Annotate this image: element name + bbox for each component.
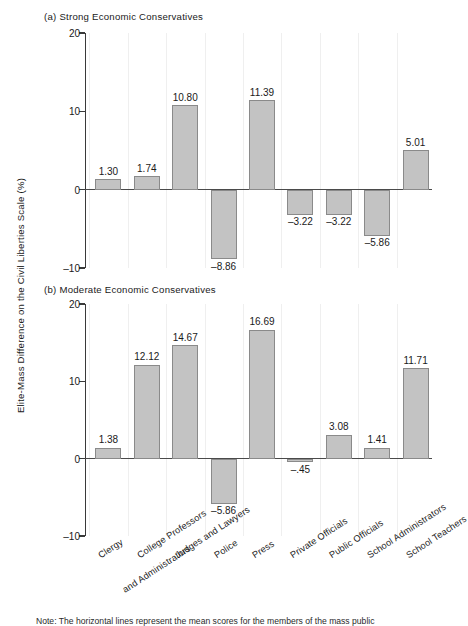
bar-value-label: 1.38 bbox=[99, 434, 118, 445]
bar-value-label: 11.71 bbox=[403, 355, 427, 366]
x-axis-category-label: Press bbox=[250, 539, 276, 561]
bar bbox=[364, 190, 390, 236]
bar bbox=[249, 330, 275, 459]
y-axis-spine bbox=[85, 33, 86, 268]
vertical-gridline bbox=[281, 304, 282, 536]
vertical-gridline bbox=[397, 304, 398, 536]
panel-moderate-economic-conservatives: (b) Moderate Economic Conservatives 2010… bbox=[0, 283, 450, 541]
bar-value-label: 14.67 bbox=[173, 332, 198, 343]
vertical-gridline bbox=[166, 304, 167, 536]
bar bbox=[95, 179, 121, 189]
vertical-gridline bbox=[320, 304, 321, 536]
plot-area-b: 20100–101.3812.1214.67–5.8616.69–.453.08… bbox=[85, 304, 432, 536]
panel-a-title: (a) Strong Economic Conservatives bbox=[44, 11, 203, 22]
vertical-gridline bbox=[397, 33, 398, 268]
bar bbox=[95, 448, 121, 459]
vertical-gridline bbox=[358, 304, 359, 536]
bar-value-label: –3.22 bbox=[288, 216, 313, 227]
bar-value-label: 1.30 bbox=[99, 166, 118, 177]
bar bbox=[172, 345, 198, 458]
x-axis-category-label: Clergy bbox=[97, 537, 125, 560]
plot-area-a: 20100–101.301.7410.80–8.8611.39–3.22–3.2… bbox=[85, 33, 432, 268]
bar bbox=[364, 448, 390, 459]
y-axis-tick-label: 10 bbox=[69, 106, 80, 117]
y-axis-tick-label: 0 bbox=[74, 453, 80, 464]
y-axis-tick-label: 0 bbox=[74, 184, 80, 195]
y-axis-tick-label: 20 bbox=[69, 299, 80, 310]
bar bbox=[249, 100, 275, 189]
vertical-gridline bbox=[128, 33, 129, 268]
x-axis-category-labels: ClergyCollege Professorsand Administrato… bbox=[0, 541, 450, 621]
bar-value-label: 5.01 bbox=[406, 137, 425, 148]
panel-strong-economic-conservatives: (a) Strong Economic Conservatives 20100–… bbox=[0, 0, 450, 283]
bar bbox=[403, 368, 429, 459]
vertical-gridline bbox=[128, 304, 129, 536]
bar bbox=[211, 459, 237, 504]
vertical-gridline bbox=[320, 33, 321, 268]
y-axis-tick-label: 20 bbox=[69, 28, 80, 39]
bar-value-label: 12.12 bbox=[134, 351, 159, 362]
bar-value-label: –3.22 bbox=[326, 216, 351, 227]
bar bbox=[134, 176, 160, 190]
bar bbox=[287, 459, 313, 462]
bar bbox=[211, 190, 237, 259]
bar-value-label: 16.69 bbox=[249, 316, 274, 327]
x-axis-category-label: Police bbox=[212, 538, 239, 561]
vertical-gridline bbox=[89, 33, 90, 268]
vertical-gridline bbox=[205, 33, 206, 268]
bar-value-label: –.45 bbox=[291, 464, 310, 475]
category-label-line: Press bbox=[250, 539, 276, 561]
vertical-gridline bbox=[89, 304, 90, 536]
bar-value-label: 3.08 bbox=[329, 421, 348, 432]
bar-value-label: –5.86 bbox=[365, 237, 390, 248]
bar bbox=[403, 150, 429, 189]
vertical-gridline bbox=[166, 33, 167, 268]
category-label-line: Police bbox=[212, 538, 239, 561]
vertical-gridline bbox=[358, 33, 359, 268]
y-axis-tick-label: –10 bbox=[63, 263, 80, 274]
y-axis-tick-label: –10 bbox=[63, 531, 80, 542]
vertical-gridline bbox=[243, 33, 244, 268]
bar bbox=[172, 105, 198, 190]
vertical-gridline bbox=[205, 304, 206, 536]
bar-value-label: 10.80 bbox=[173, 92, 198, 103]
figure-note: Note: The horizontal lines represent the… bbox=[36, 616, 436, 626]
category-label-line: Clergy bbox=[97, 537, 125, 560]
vertical-gridline bbox=[281, 33, 282, 268]
bar-value-label: 1.74 bbox=[137, 163, 156, 174]
bar bbox=[326, 190, 352, 215]
bar-value-label: 1.41 bbox=[367, 434, 386, 445]
bar-value-label: 11.39 bbox=[250, 87, 274, 98]
y-axis-tick-label: 10 bbox=[69, 376, 80, 387]
bar-value-label: –8.86 bbox=[211, 261, 236, 272]
y-axis-spine bbox=[85, 304, 86, 536]
vertical-gridline bbox=[243, 304, 244, 536]
bar bbox=[326, 435, 352, 459]
bar bbox=[134, 365, 160, 459]
bar bbox=[287, 190, 313, 215]
panel-b-title: (b) Moderate Economic Conservatives bbox=[44, 284, 216, 295]
